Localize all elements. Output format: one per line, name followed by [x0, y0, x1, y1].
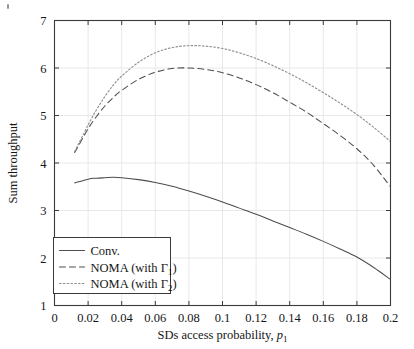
- x-tick-label: 0.14: [279, 311, 302, 325]
- y-tick-label: 4: [40, 157, 47, 171]
- x-tick-label: 0.1: [215, 311, 231, 325]
- sum-throughput-line-chart: 00.020.040.060.080.10.120.140.160.180.2 …: [0, 0, 414, 349]
- x-tick-label: 0.18: [346, 311, 368, 325]
- y-tick-label: 6: [40, 62, 46, 76]
- x-tick-label: 0.2: [383, 311, 399, 325]
- y-tick-label: 1: [40, 299, 46, 313]
- legend-label-0: Conv.: [91, 244, 120, 258]
- x-tick-label: 0.02: [77, 311, 99, 325]
- x-tick-label: 0.16: [312, 311, 334, 325]
- scan-artifact-speck: [7, 4, 9, 9]
- x-tick-label: 0.04: [111, 311, 134, 325]
- x-axis-tick-labels: 00.020.040.060.080.10.120.140.160.180.2: [51, 311, 398, 325]
- x-tick-label: 0.08: [178, 311, 200, 325]
- chart-legend: Conv.NOMA (with Γ1)NOMA (with Γ2): [54, 238, 177, 294]
- x-tick-label: 0.06: [144, 311, 166, 325]
- y-tick-label: 3: [40, 204, 46, 218]
- x-tick-label: 0: [51, 311, 57, 325]
- y-tick-label: 7: [40, 14, 46, 28]
- legend-label-1: NOMA (with Γ1): [91, 261, 177, 277]
- y-tick-label: 2: [40, 252, 46, 266]
- figure-container: 00.020.040.060.080.10.120.140.160.180.2 …: [0, 0, 414, 349]
- x-axis-title: SDs access probability, p1: [157, 328, 287, 344]
- x-tick-label: 0.12: [245, 311, 267, 325]
- y-axis-tick-labels: 1234567: [40, 14, 47, 313]
- y-axis-title: Sum throughput: [6, 122, 20, 203]
- y-tick-label: 5: [40, 109, 46, 123]
- legend-label-2: NOMA (with Γ2): [91, 277, 177, 293]
